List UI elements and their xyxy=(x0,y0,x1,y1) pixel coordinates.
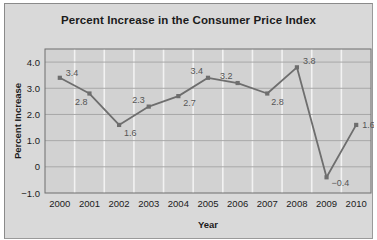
x-tick-label: 2009 xyxy=(316,198,337,209)
x-tick-label: 2008 xyxy=(286,198,307,209)
y-tick-label: 2.0 xyxy=(27,109,40,120)
data-point-marker xyxy=(354,123,358,127)
data-point-marker xyxy=(236,81,240,85)
x-tick-label: 2000 xyxy=(49,198,70,209)
y-tick-label: 0 xyxy=(35,161,40,172)
y-axis-title: Percent Increase xyxy=(12,83,23,159)
data-point-label: 3.2 xyxy=(220,71,233,81)
chart-card: Percent Increase in the Consumer Price I… xyxy=(4,3,373,239)
data-point-marker xyxy=(206,76,210,80)
y-axis-tick-labels: 4.03.02.01.00−1.0 xyxy=(21,57,40,199)
y-tick-label: 1.0 xyxy=(27,135,40,146)
y-tick-label: −1.0 xyxy=(21,188,40,199)
data-point-label: 2.8 xyxy=(271,97,284,107)
x-tick-label: 2007 xyxy=(257,198,278,209)
data-point-marker xyxy=(58,76,62,80)
data-point-label: 2.3 xyxy=(132,95,145,105)
data-point-marker xyxy=(265,91,269,95)
data-point-label: −0.4 xyxy=(332,178,350,188)
x-tick-label: 2004 xyxy=(168,198,189,209)
data-point-marker xyxy=(176,94,180,98)
data-point-marker xyxy=(87,91,91,95)
data-point-label: 2.7 xyxy=(183,98,196,108)
y-tick-label: 3.0 xyxy=(27,83,40,94)
x-tick-label: 2010 xyxy=(346,198,367,209)
data-point-label: 3.4 xyxy=(190,66,203,76)
x-tick-label: 2001 xyxy=(79,198,100,209)
data-point-marker xyxy=(324,175,328,179)
x-axis-title: Year xyxy=(198,219,218,230)
x-tick-label: 2003 xyxy=(138,198,159,209)
data-point-label: 1.6 xyxy=(362,120,374,130)
plot-area-background xyxy=(45,49,371,193)
x-tick-label: 2005 xyxy=(197,198,218,209)
data-point-marker xyxy=(295,65,299,69)
x-axis-tick-labels: 2000200120022003200420052006200720082009… xyxy=(49,198,367,209)
line-chart: 4.03.02.01.00−1.0 2000200120022003200420… xyxy=(5,4,374,240)
data-point-marker xyxy=(147,105,151,109)
data-point-label: 3.8 xyxy=(303,56,316,66)
data-point-label: 1.6 xyxy=(124,128,137,138)
y-tick-label: 4.0 xyxy=(27,57,40,68)
x-tick-label: 2002 xyxy=(109,198,130,209)
data-point-label: 3.4 xyxy=(66,68,79,78)
data-point-marker xyxy=(117,123,121,127)
x-tick-label: 2006 xyxy=(227,198,248,209)
data-point-label: 2.8 xyxy=(75,97,88,107)
